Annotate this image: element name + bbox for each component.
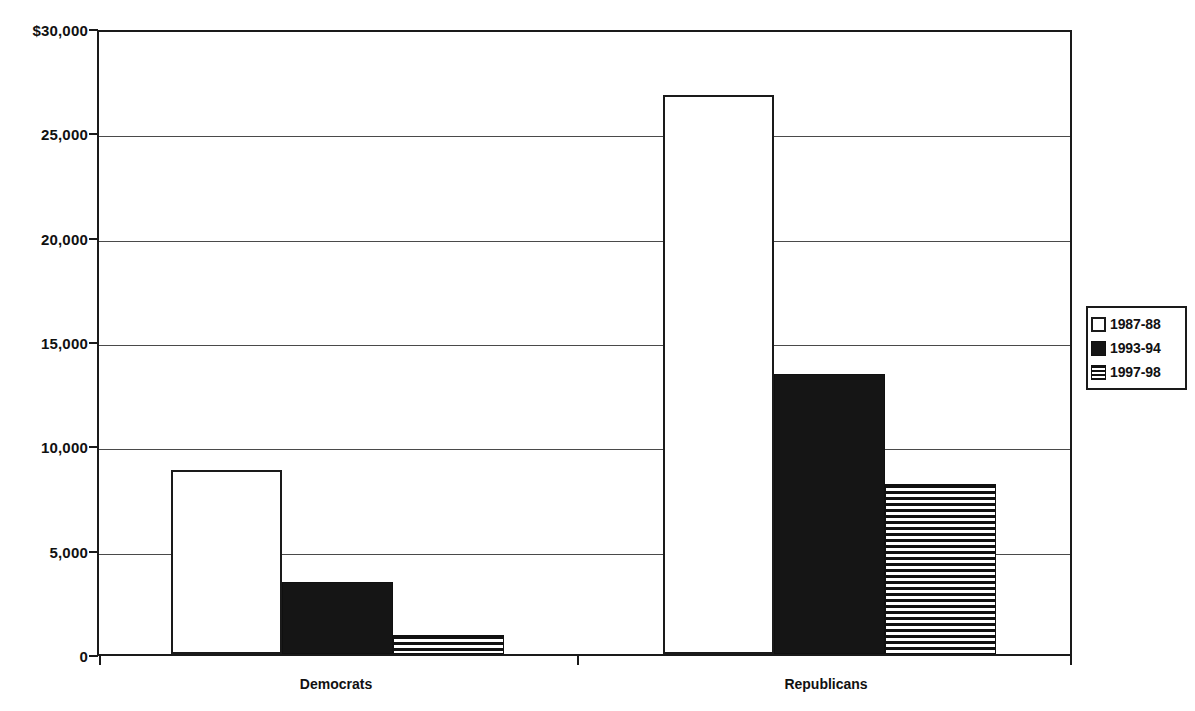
- y-axis-tick-label: $30,000: [4, 22, 88, 39]
- bar-republicans-1987-88: [663, 95, 774, 654]
- x-axis-tick-mark: [577, 656, 579, 665]
- y-axis-tick-label: 20,000: [4, 230, 88, 247]
- legend-item-1987-88: 1987-88: [1091, 312, 1181, 336]
- legend-item-label: 1987-88: [1110, 316, 1161, 332]
- bar-democrats-1987-88: [171, 470, 282, 654]
- x-axis-tick-mark: [99, 656, 101, 665]
- legend-swatch-icon: [1091, 317, 1106, 332]
- legend-swatch-icon: [1091, 365, 1106, 380]
- legend-item-label: 1997-98: [1110, 364, 1161, 380]
- bar-republicans-1997-98: [885, 484, 996, 654]
- y-axis-tick-label: 0: [4, 648, 88, 665]
- bar-democrats-1997-98: [393, 635, 504, 654]
- gridline: [99, 345, 1070, 346]
- legend-item-1993-94: 1993-94: [1091, 336, 1181, 360]
- gridline: [99, 449, 1070, 450]
- y-axis-tick-label: 10,000: [4, 439, 88, 456]
- bar-democrats-1993-94: [282, 582, 393, 654]
- bar-chart: $30,00025,00020,00015,00010,0005,0000 De…: [0, 0, 1195, 711]
- legend-item-1997-98: 1997-98: [1091, 360, 1181, 384]
- legend-item-label: 1993-94: [1110, 340, 1161, 356]
- gridline: [99, 241, 1070, 242]
- x-axis-category-label: Republicans: [784, 676, 867, 692]
- y-axis-tick-label: 5,000: [4, 543, 88, 560]
- x-axis-tick-mark: [1070, 656, 1072, 665]
- x-axis-category-label: Democrats: [300, 676, 372, 692]
- bar-republicans-1993-94: [774, 374, 885, 654]
- gridline: [99, 136, 1070, 137]
- legend: 1987-881993-941997-98: [1086, 306, 1187, 390]
- legend-swatch-icon: [1091, 341, 1106, 356]
- plot-area: [97, 30, 1072, 656]
- y-axis-tick-label: 25,000: [4, 126, 88, 143]
- y-axis-tick-label: 15,000: [4, 335, 88, 352]
